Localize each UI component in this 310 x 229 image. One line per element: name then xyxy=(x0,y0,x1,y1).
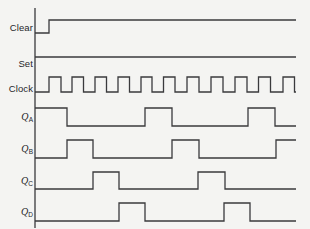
waveform-canvas xyxy=(0,0,310,229)
waveform-qb xyxy=(35,140,296,158)
waveform-clock xyxy=(35,77,296,92)
waveform-qc xyxy=(35,172,296,189)
waveform-qa xyxy=(35,108,296,126)
waveform-clear xyxy=(35,20,296,33)
waveform-qd xyxy=(35,203,296,221)
timing-diagram: ClearSetClockQAQBQCQD xyxy=(0,0,310,229)
